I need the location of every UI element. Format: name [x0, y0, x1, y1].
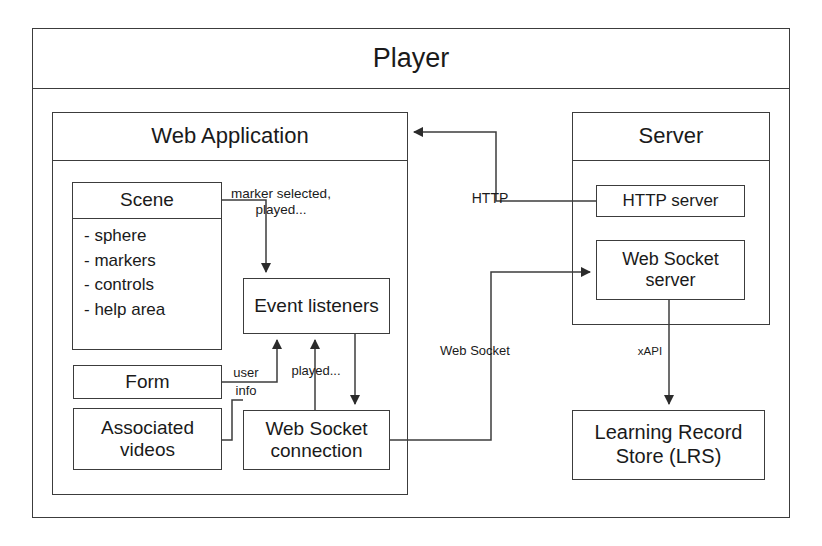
scene-header-divider — [72, 218, 222, 219]
http-server-box: HTTP server — [596, 185, 745, 217]
form-box: Form — [73, 365, 222, 399]
edge-label-http: HTTP — [455, 190, 525, 206]
player-title: Player — [32, 28, 790, 88]
edge-label-user-info: user info — [222, 364, 270, 399]
event-listeners-box: Event listeners — [243, 278, 390, 334]
scene-title: Scene — [72, 182, 222, 218]
server-header-divider — [572, 160, 770, 161]
scene-item-list: - sphere - markers - controls - help are… — [84, 224, 222, 323]
scene-list-item: - controls — [84, 273, 222, 298]
edge-label-marker-selected: marker selected, played... — [222, 186, 340, 217]
scene-list-item: - sphere — [84, 224, 222, 249]
associated-videos-box: Associated videos — [73, 408, 222, 470]
web-socket-server-box: Web Socket server — [596, 240, 745, 300]
player-header-divider — [32, 88, 790, 89]
edge-label-xapi: xAPI — [620, 345, 680, 358]
web-application-header-divider — [52, 160, 408, 161]
edge-label-played: played... — [283, 364, 349, 379]
scene-list-item: - markers — [84, 249, 222, 274]
learning-record-store-box: Learning Record Store (LRS) — [572, 410, 765, 480]
edge-label-web-socket: Web Socket — [420, 344, 530, 359]
scene-list-item: - help area — [84, 298, 222, 323]
server-title: Server — [572, 112, 770, 160]
web-application-title: Web Application — [52, 112, 408, 160]
web-socket-connection-box: Web Socket connection — [243, 410, 390, 470]
